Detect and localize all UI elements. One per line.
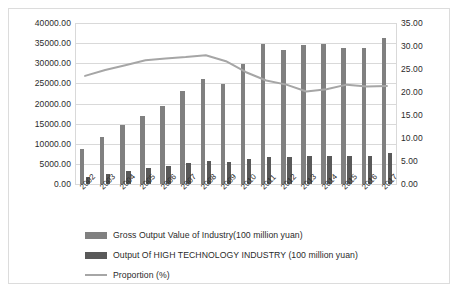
right-axis-tick-label: 10.00 [401,134,453,143]
proportion-line-series [75,23,397,184]
legend-swatch-high-tech-output [85,252,107,259]
legend-item: Gross Output Value of Industry(100 milli… [85,225,415,245]
legend-label-high-tech-output: Output Of HIGH TECHNOLOGY INDUSTRY (100 … [113,250,358,260]
proportion-line [85,55,387,91]
left-axis-tick-label: 5000.00 [11,160,71,169]
chart-frame: 0.005000.0010000.0015000.0020000.0025000… [8,8,450,284]
right-axis-tick-label: 0.00 [401,180,453,189]
left-axis-tick-label: 25000.00 [11,79,71,88]
left-axis-tick-label: 10000.00 [11,140,71,149]
x-axis-labels: 2002200320042005200620072008200920102011… [75,185,397,219]
left-axis-tick-label: 0.00 [11,180,71,189]
left-axis-tick-label: 40000.00 [11,19,71,28]
right-axis-tick-label: 30.00 [401,42,453,51]
right-axis-tick-label: 25.00 [401,65,453,74]
legend-item: Proportion (%) [85,265,415,285]
left-axis-tick-label: 30000.00 [11,59,71,68]
right-axis-tick-label: 35.00 [401,19,453,28]
right-axis-ticks: 0.005.0010.0015.0020.0025.0030.0035.00 [401,23,455,184]
legend-swatch-gross-output [85,232,107,239]
legend-swatch-proportion [85,274,107,276]
legend-item: Output Of HIGH TECHNOLOGY INDUSTRY (100 … [85,245,415,265]
plot-area [75,23,397,184]
right-axis-tick-label: 20.00 [401,88,453,97]
right-axis-tick-label: 15.00 [401,111,453,120]
legend-label-gross-output: Gross Output Value of Industry(100 milli… [113,230,303,240]
right-axis-tick-label: 5.00 [401,157,453,166]
left-axis-tick-label: 20000.00 [11,99,71,108]
left-axis-tick-label: 35000.00 [11,39,71,48]
left-axis-tick-label: 15000.00 [11,119,71,128]
chart-legend: Gross Output Value of Industry(100 milli… [85,225,415,285]
left-axis-ticks: 0.005000.0010000.0015000.0020000.0025000… [9,23,71,184]
legend-label-proportion: Proportion (%) [113,270,170,280]
